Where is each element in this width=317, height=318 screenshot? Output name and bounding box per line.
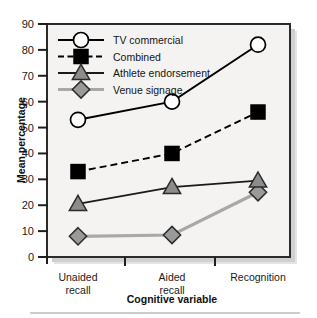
- y-tick-label: 20: [22, 199, 34, 211]
- data-point: [251, 105, 265, 119]
- data-point: [165, 94, 180, 109]
- chart-figure: 0102030405060708090 UnaidedrecallAidedre…: [0, 0, 317, 318]
- y-tick-label: 0: [28, 251, 34, 263]
- y-axis-title: Mean percentage: [15, 97, 27, 183]
- x-axis-title: Cognitive variable: [127, 293, 218, 305]
- legend-label: Athlete endorsement: [113, 67, 210, 79]
- data-point: [251, 37, 266, 52]
- y-tick-label: 10: [22, 225, 34, 237]
- legend-marker: [74, 33, 89, 48]
- legend-label: Combined: [113, 51, 161, 63]
- legend-label: Venue signage: [113, 84, 183, 96]
- data-point: [71, 165, 85, 179]
- x-category-label: Unaided: [58, 271, 97, 283]
- data-point: [165, 146, 179, 160]
- legend-label: TV commercial: [113, 34, 183, 46]
- legend-item-tv-commercial: TV commercial: [58, 33, 183, 48]
- legend-item-athlete-endorsement: Athlete endorsement: [58, 64, 210, 79]
- legend-marker: [74, 50, 88, 64]
- x-category-label: Aided: [159, 271, 186, 283]
- y-tick-label: 80: [22, 44, 34, 56]
- x-category-label: Recognition: [230, 271, 286, 283]
- x-category-label: recall: [65, 284, 90, 296]
- data-point: [71, 112, 86, 127]
- y-tick-label: 70: [22, 70, 34, 82]
- line-chart: 0102030405060708090 UnaidedrecallAidedre…: [0, 0, 317, 318]
- y-tick-label: 90: [22, 18, 34, 30]
